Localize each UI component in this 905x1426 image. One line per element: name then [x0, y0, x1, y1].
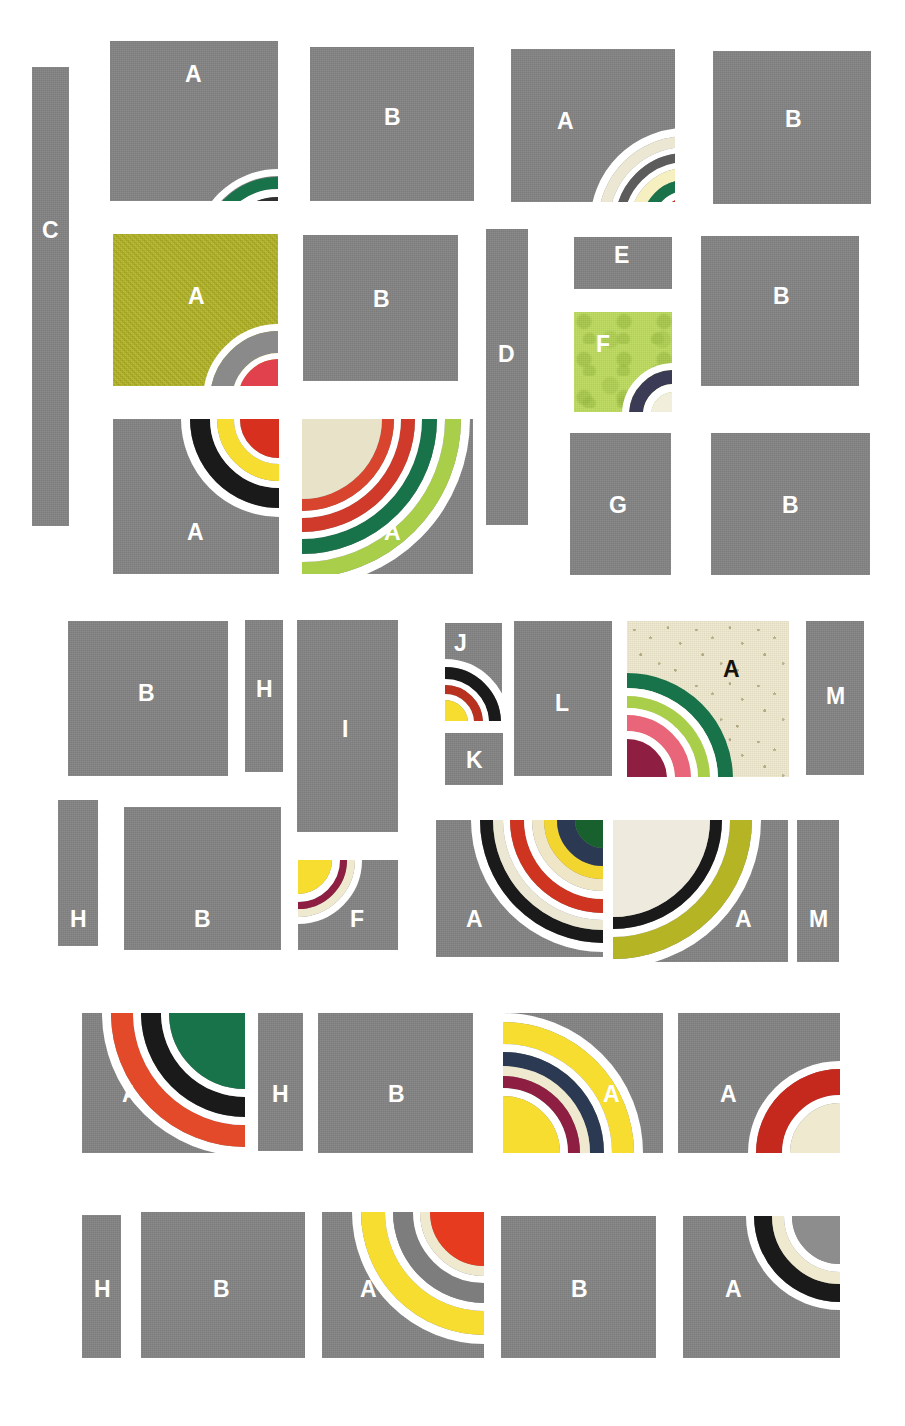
- arc-ring-4: [445, 697, 471, 721]
- arc-ring-1: [487, 820, 604, 937]
- block-label-a: A: [725, 1278, 742, 1301]
- arc-ring-3: [298, 860, 336, 898]
- arc-ring-1: [604, 142, 676, 203]
- block-label-a: A: [720, 1083, 737, 1106]
- arc-ring-5: [260, 419, 280, 439]
- arc-ring-3: [302, 419, 430, 547]
- collage-block-a-b12: [113, 419, 279, 574]
- arc-ring-3: [788, 1216, 840, 1268]
- collage-block-a-b39: [683, 1216, 840, 1358]
- block-label-f: F: [350, 908, 365, 931]
- collage-canvas: CABABABDEBFAAGBBHIJKLAMHBFAAMAHBAAHBABA: [0, 0, 905, 1426]
- block-label-b: B: [782, 494, 799, 517]
- arc-ring-0: [594, 132, 675, 202]
- block-label-k: K: [466, 749, 483, 772]
- arc-ring-2: [778, 1216, 840, 1278]
- arc-ring-4: [517, 820, 603, 906]
- block-label-a: A: [603, 1083, 620, 1106]
- block-label-a: A: [735, 908, 752, 931]
- collage-block-f-b26: [298, 860, 398, 950]
- arc-ring-2: [498, 820, 603, 925]
- decorative-arc-group: [436, 820, 603, 957]
- arc-ring-2: [137, 1013, 245, 1121]
- block-label-m: M: [826, 685, 846, 708]
- block-label-c: C: [42, 219, 59, 242]
- arc-ring-2: [786, 1099, 840, 1153]
- block-label-i: I: [342, 718, 349, 741]
- olive-weave-pattern: [113, 234, 278, 386]
- collage-block-a-b34: [678, 1013, 840, 1153]
- lime-mottle-pattern: [574, 312, 672, 412]
- arc-ring-5: [445, 712, 457, 722]
- arc-ring-1: [763, 1216, 840, 1293]
- decorative-arc-group: [302, 419, 473, 574]
- decorative-arc-group: [511, 49, 675, 202]
- decorative-arc-group: [82, 1013, 245, 1153]
- block-label-b: B: [773, 285, 790, 308]
- collage-block-a-b04: [511, 49, 675, 202]
- arc-ring-6: [538, 820, 603, 885]
- arc-ring-2: [503, 1048, 608, 1153]
- arc-ring-4: [816, 1216, 840, 1240]
- block-label-f: F: [596, 333, 611, 356]
- block-label-b: B: [388, 1083, 405, 1106]
- arc-ring-1: [613, 820, 741, 948]
- arc-ring-2: [445, 682, 486, 721]
- decorative-arc-group: [683, 1216, 840, 1358]
- arc-ring-3: [613, 820, 716, 923]
- block-label-a: A: [122, 1083, 139, 1106]
- arc-ring-7: [551, 820, 604, 873]
- arc-ring-7: [503, 1125, 532, 1154]
- arc-ring-4: [302, 419, 419, 536]
- block-label-b: B: [194, 908, 211, 931]
- arc-ring-3: [815, 1128, 840, 1153]
- arc-ring-4: [165, 1013, 245, 1093]
- arc-ring-8: [302, 419, 342, 459]
- collage-block-a-b33: [503, 1013, 663, 1153]
- block-label-b: B: [785, 108, 802, 131]
- arc-ring-3: [151, 1013, 245, 1107]
- block-label-b: B: [571, 1278, 588, 1301]
- eiffel-toile-pattern: [627, 621, 789, 777]
- decorative-arc-group: [322, 1212, 484, 1358]
- collage-block-d-b08: [486, 229, 528, 525]
- arc-ring-4: [237, 419, 279, 461]
- arc-ring-5: [302, 419, 408, 525]
- arc-ring-4: [627, 165, 675, 202]
- block-label-m: M: [809, 908, 829, 931]
- collage-block-a-b22: [627, 621, 789, 777]
- arc-ring-2: [298, 860, 344, 906]
- arc-ring-1: [208, 183, 278, 201]
- arc-ring-5: [636, 174, 675, 202]
- collage-block-m-b29: [797, 820, 839, 962]
- arc-ring-3: [226, 419, 280, 473]
- arc-ring-7: [302, 419, 388, 505]
- block-label-b: B: [213, 1278, 230, 1301]
- block-label-b: B: [373, 288, 390, 311]
- decorative-arc-group: [678, 1013, 840, 1153]
- arc-ring-1: [298, 860, 351, 913]
- block-label-h: H: [272, 1083, 289, 1106]
- block-label-a: A: [384, 521, 401, 544]
- block-label-a: A: [185, 63, 202, 86]
- block-label-a: A: [188, 285, 205, 308]
- arc-ring-6: [302, 419, 398, 515]
- decorative-arc-group: [503, 1013, 663, 1153]
- arc-ring-9: [589, 820, 603, 834]
- arc-ring-0: [752, 1065, 840, 1153]
- arc-ring-1: [302, 419, 453, 570]
- arc-ring-5: [503, 1082, 574, 1153]
- arc-ring-6: [648, 186, 676, 203]
- arc-ring-0: [445, 663, 502, 721]
- arc-ring-4: [417, 1212, 485, 1280]
- collage-block-a-b37: [322, 1212, 484, 1358]
- block-label-a: A: [723, 658, 740, 681]
- block-label-b: B: [138, 682, 155, 705]
- arc-ring-3: [445, 690, 479, 722]
- block-label-h: H: [256, 678, 273, 701]
- arc-ring-0: [613, 820, 757, 962]
- collage-block-b-b10: [701, 236, 859, 386]
- arc-ring-2: [389, 1212, 484, 1307]
- arc-ring-2: [612, 150, 675, 202]
- arc-ring-6: [503, 1092, 564, 1153]
